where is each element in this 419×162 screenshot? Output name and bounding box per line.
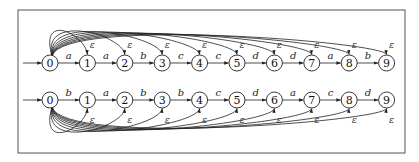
state-label: 1: [84, 57, 91, 70]
state-label: 8: [346, 94, 353, 107]
transition-label: a: [66, 50, 72, 61]
state-label: 0: [47, 94, 54, 107]
transition-label: c: [215, 50, 221, 61]
state-label: 6: [271, 57, 278, 70]
transition-label: a: [103, 50, 109, 61]
state-label: 9: [383, 57, 390, 70]
epsilon-label: ε: [352, 114, 357, 125]
transition-label: b: [65, 87, 71, 98]
automaton-top: εεεεεεεεεaabccddab0123456789: [23, 30, 395, 71]
epsilon-label: ε: [314, 114, 319, 125]
state-6: 6: [266, 92, 282, 108]
state-label: 4: [196, 57, 203, 70]
state-label: 2: [121, 94, 128, 107]
transition-label: c: [328, 87, 334, 98]
state-2: 2: [117, 55, 133, 71]
epsilon-edge-0-8: [52, 34, 349, 56]
epsilon-label: ε: [165, 39, 170, 50]
diagram-frame: [18, 10, 405, 153]
state-label: 8: [346, 57, 353, 70]
transition-label: a: [328, 50, 334, 61]
transition-label: d: [252, 50, 258, 61]
state-9: 9: [379, 92, 395, 108]
state-label: 1: [84, 94, 91, 107]
state-label: 3: [159, 94, 166, 107]
epsilon-label: ε: [90, 39, 95, 50]
state-1: 1: [79, 92, 95, 108]
state-label: 3: [159, 57, 166, 70]
transition-label: b: [140, 50, 146, 61]
state-6: 6: [266, 55, 282, 71]
state-4: 4: [192, 92, 208, 108]
state-8: 8: [341, 55, 357, 71]
state-5: 5: [229, 92, 245, 108]
state-9: 9: [379, 55, 395, 71]
state-8: 8: [341, 92, 357, 108]
epsilon-label: ε: [352, 39, 357, 50]
transition-label: c: [178, 50, 184, 61]
state-5: 5: [229, 55, 245, 71]
state-2: 2: [117, 92, 133, 108]
state-7: 7: [304, 92, 320, 108]
transition-label: b: [140, 87, 146, 98]
epsilon-label: ε: [127, 39, 132, 50]
state-0: 0: [42, 55, 58, 71]
transition-label: b: [178, 87, 184, 98]
automaton-bottom: εεεεεεεεεbabbcdacd0123456789: [23, 87, 395, 133]
transition-label: a: [290, 87, 296, 98]
epsilon-label: ε: [202, 114, 207, 125]
automata-layer: εεεεεεεεεaabccddab0123456789εεεεεεεεεbab…: [23, 30, 395, 132]
state-3: 3: [154, 92, 170, 108]
state-4: 4: [192, 55, 208, 71]
epsilon-edge-0-8: [52, 107, 349, 129]
transition-label: b: [365, 50, 371, 61]
state-label: 6: [271, 94, 278, 107]
epsilon-label: ε: [314, 39, 319, 50]
automata-diagram: εεεεεεεεεaabccddab0123456789εεεεεεεεεbab…: [0, 0, 419, 162]
epsilon-label: ε: [277, 114, 282, 125]
transition-label: a: [103, 87, 109, 98]
epsilon-label: ε: [239, 39, 244, 50]
state-3: 3: [154, 55, 170, 71]
transition-label: d: [365, 87, 371, 98]
state-label: 7: [308, 94, 315, 107]
epsilon-edge-0-9: [52, 107, 387, 128]
state-1: 1: [79, 55, 95, 71]
transition-label: d: [290, 50, 296, 61]
epsilon-label: ε: [389, 39, 394, 50]
transition-label: d: [252, 87, 258, 98]
epsilon-label: ε: [127, 114, 132, 125]
state-label: 9: [383, 94, 390, 107]
state-label: 2: [121, 57, 128, 70]
state-label: 4: [196, 94, 203, 107]
state-0: 0: [42, 92, 58, 108]
transition-label: c: [215, 87, 221, 98]
epsilon-label: ε: [389, 114, 394, 125]
state-label: 0: [47, 57, 54, 70]
state-7: 7: [304, 55, 320, 71]
state-label: 7: [308, 57, 315, 70]
state-label: 5: [234, 94, 241, 107]
state-label: 5: [234, 57, 241, 70]
